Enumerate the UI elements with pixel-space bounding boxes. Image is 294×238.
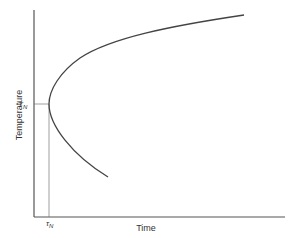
x-axis-label: Time [136,223,156,233]
y-axis-label: Temperature [14,90,24,141]
c-curve [49,15,244,177]
ttt-chart: Temperature TN τN Time [0,0,294,238]
taun-tick-label: τN [46,219,54,229]
